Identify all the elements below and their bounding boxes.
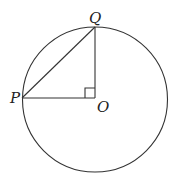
label-q: Q (89, 9, 101, 27)
geometry-diagram: Q P O (0, 0, 180, 184)
label-p: P (9, 89, 21, 107)
label-o: O (97, 98, 109, 116)
right-angle-marker (85, 88, 95, 98)
